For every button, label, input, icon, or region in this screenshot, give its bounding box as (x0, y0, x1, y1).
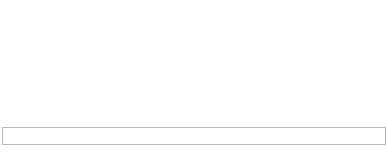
plot-svg (60, 17, 376, 103)
figure-container (0, 0, 388, 160)
stacked-area-chart (0, 0, 388, 126)
chart-legend (2, 127, 386, 145)
x-axis-tick-labels (60, 107, 376, 121)
y-axis-tick-labels (16, 12, 56, 108)
plot-area (60, 17, 376, 103)
